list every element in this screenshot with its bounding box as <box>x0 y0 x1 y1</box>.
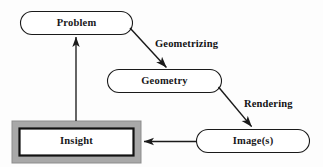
edge-label-geometrizing: Geometrizing <box>155 39 218 50</box>
node-label-insight: Insight <box>19 136 134 147</box>
node-label-images: Image(s) <box>196 136 310 147</box>
diagram-canvas: Problem Geometry Image(s) Insight Geomet… <box>0 0 323 167</box>
node-label-problem: Problem <box>20 18 133 29</box>
node-label-geometry: Geometry <box>107 76 222 87</box>
edge-label-rendering: Rendering <box>244 99 293 110</box>
